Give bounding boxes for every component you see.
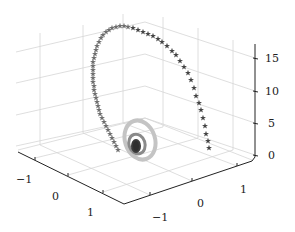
z-tick-15: 15 [265, 53, 279, 64]
left-tick-1: 1 [87, 207, 94, 218]
grid-lines [16, 14, 255, 195]
inner-coil [120, 116, 161, 163]
axes [18, 44, 258, 204]
right-tick-0: 0 [197, 198, 204, 209]
z-tick-0: 0 [268, 150, 275, 161]
z-tick-10: 10 [265, 86, 279, 97]
3d-spiral-plot [0, 0, 295, 232]
right-tick-1: 1 [240, 184, 247, 195]
right-tick-minus1: −1 [152, 212, 168, 223]
z-tick-5: 5 [268, 118, 275, 129]
left-tick-minus1: −1 [16, 174, 32, 185]
left-tick-0: 0 [52, 191, 59, 202]
left-axis [18, 152, 124, 204]
right-axis [124, 161, 252, 204]
